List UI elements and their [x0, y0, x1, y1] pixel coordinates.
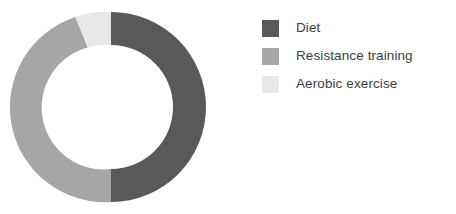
chart-legend: Diet Resistance training Aerobic exercis…	[262, 14, 452, 98]
legend-label-diet: Diet	[296, 21, 320, 35]
legend-label-resistance-training: Resistance training	[296, 49, 413, 63]
legend-item-aerobic-exercise[interactable]: Aerobic exercise	[262, 70, 452, 98]
legend-swatch-resistance-training	[262, 48, 279, 65]
legend-swatch-diet	[262, 20, 279, 37]
donut-chart-figure: Diet Resistance training Aerobic exercis…	[0, 0, 456, 214]
legend-label-aerobic-exercise: Aerobic exercise	[296, 77, 397, 91]
donut-chart-plot	[0, 0, 228, 214]
donut-slices	[10, 12, 206, 202]
donut-slice-diet[interactable]	[111, 12, 206, 202]
legend-item-resistance-training[interactable]: Resistance training	[262, 42, 452, 70]
legend-swatch-aerobic-exercise	[262, 76, 279, 93]
legend-item-diet[interactable]: Diet	[262, 14, 452, 42]
